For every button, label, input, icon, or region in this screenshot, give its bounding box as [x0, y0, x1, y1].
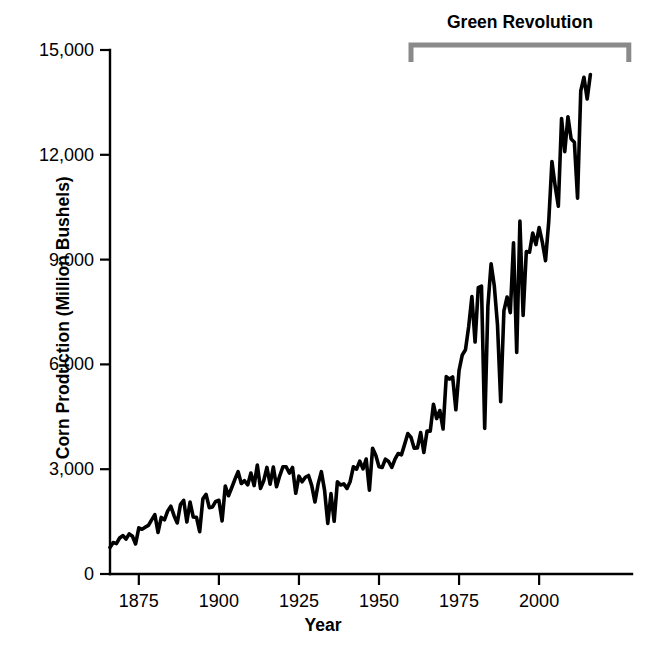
y-axis-tick-label: 12,000: [0, 146, 94, 164]
x-axis-tick-label: 1875: [119, 592, 159, 610]
y-axis-title: Corn Production (Million Bushels): [55, 118, 73, 518]
green-revolution-label: Green Revolution: [411, 14, 629, 32]
chart-figure: 03,0006,0009,00012,00015,000 18751900192…: [0, 0, 646, 651]
green-revolution-bracket: [411, 45, 629, 62]
x-axis-title: Year: [0, 617, 646, 635]
x-axis-tick-label: 1900: [199, 592, 239, 610]
y-axis-ticks: [100, 50, 110, 574]
corn-production-line: [110, 74, 590, 547]
y-axis-tick-label: 15,000: [0, 41, 94, 59]
chart-plot-area: [0, 0, 646, 651]
y-axis-tick-label: 9,000: [0, 251, 94, 269]
y-axis-tick-label: 0: [0, 565, 94, 583]
x-axis-ticks: [139, 574, 539, 585]
x-axis-tick-label: 1975: [439, 592, 479, 610]
y-axis-tick-label: 6,000: [0, 355, 94, 373]
x-axis-tick-label: 1950: [359, 592, 399, 610]
x-axis-tick-label: 2000: [519, 592, 559, 610]
x-axis-tick-label: 1925: [279, 592, 319, 610]
y-axis-tick-label: 3,000: [0, 460, 94, 478]
